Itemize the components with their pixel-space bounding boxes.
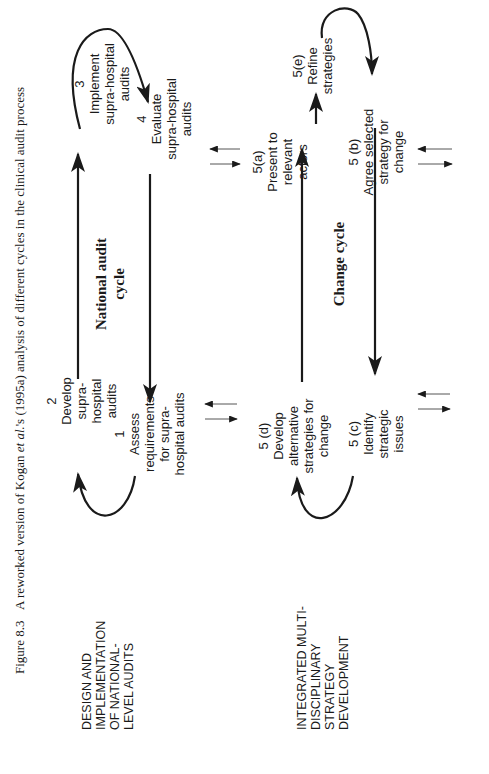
label-strategy-development: INTEGRATED MULTI- DISCIPLINARY STRATEGY … — [295, 606, 351, 730]
label-national-audits: DESIGN AND IMPLEMENTATION OF NATIONAL- L… — [80, 621, 136, 730]
node-2-develop: 2 Develop supra- hospital audits — [44, 371, 119, 431]
node-5a-present: 5(a) Present to relevant actors — [250, 122, 310, 202]
node-1-assess: 1 Assess requirements for supra- hospita… — [112, 384, 187, 484]
node-5e-refine: 5(e) Refine strategies — [290, 30, 335, 102]
node-4-evaluate: 4 Evaluate supra-hospital audits — [134, 69, 194, 169]
national-audit-cycle-title: National audit cycle — [92, 214, 128, 354]
change-cycle-title: Change cycle — [330, 194, 348, 334]
node-3-implement: 3 Implement supra-hospital audits — [72, 34, 132, 134]
node-5b-agree-strategy: 5 (b) Agree selected strategy for change — [346, 102, 406, 202]
node-5d-develop-alternatives: 5 (d) Develop alternative strategies for… — [256, 386, 331, 486]
diagram-page: Figure 8.3 A reworked version of Kogan e… — [0, 0, 489, 774]
node-5c-identify-issues: 5 (c) Identify strategic issues — [346, 394, 406, 474]
